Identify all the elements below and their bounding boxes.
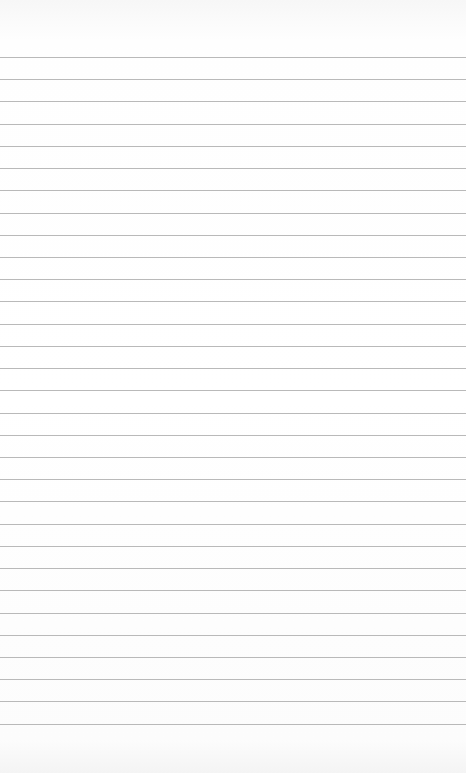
ruled-line [0,590,466,591]
ruled-line [0,546,466,547]
ruled-line [0,79,466,80]
ruled-line [0,124,466,125]
ruled-line [0,235,466,236]
ruled-line [0,701,466,702]
ruled-line [0,213,466,214]
ruled-line [0,324,466,325]
ruled-line [0,724,466,725]
ruled-line [0,635,466,636]
ruled-line [0,657,466,658]
ruled-line [0,457,466,458]
ruled-line [0,679,466,680]
ruled-line [0,368,466,369]
ruled-line [0,346,466,347]
ruled-line [0,501,466,502]
ruled-line [0,301,466,302]
ruled-line [0,190,466,191]
ruled-line [0,279,466,280]
ruled-line [0,524,466,525]
ruled-line [0,435,466,436]
ruled-line [0,479,466,480]
ruled-line [0,101,466,102]
ruled-line [0,146,466,147]
ruled-line [0,568,466,569]
ruled-line [0,390,466,391]
ruled-line [0,613,466,614]
ruled-line [0,257,466,258]
ruled-line [0,168,466,169]
lined-paper [0,0,466,773]
ruled-line [0,413,466,414]
ruled-line [0,57,466,58]
